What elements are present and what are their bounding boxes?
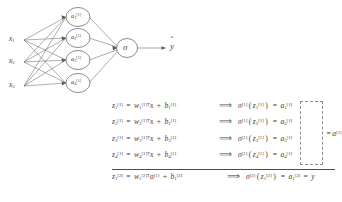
equals-sign: =: [279, 172, 286, 181]
equals-sign: =: [125, 150, 132, 159]
activation-value: a1[1]: [280, 101, 292, 110]
plus-sign: +: [155, 117, 162, 126]
implies-arrow-icon: ⟹: [220, 171, 246, 181]
hidden-node-circles: [66, 8, 90, 93]
implies-arrow-icon: ⟹: [212, 100, 238, 110]
network-edges-svg: [0, 0, 185, 105]
edge-group-hidden-to-output: [89, 17, 117, 83]
equations-block: z1[1] = w1[1]Tx + b1[1] ⟹ σ[1](z1[1]) = …: [112, 100, 339, 198]
equation-sigma-expression: σ[1](z2[1]) = a2[1]: [238, 117, 339, 126]
equation-z-expression-output: z1[2] = w1[2]Ta[1] + b1[2]: [112, 172, 220, 181]
equation-z-expression: z4[1] = w4[1]Tx + b4[1]: [112, 150, 212, 159]
implies-arrow-icon: ⟹: [212, 133, 238, 143]
equals-sign: =: [302, 172, 309, 181]
equals-sign: =: [271, 101, 278, 110]
equation-sigma-expression: σ[1](z3[1]) = a3[1]: [238, 134, 339, 143]
final-yhat: ˆy: [311, 172, 314, 181]
equation-sigma-expression-output: σ[2](z1[2]) = a1[2] = ˆy: [246, 172, 315, 181]
equation-row: z3[1] = w3[1]Tx + b3[1] ⟹ σ[1](z3[1]) = …: [112, 133, 339, 149]
neural-network-diagram: x1 x2 x3 a1[1] a2[1] a3[1] a4[1] σ ˆy: [0, 0, 185, 105]
equals-sign: =: [125, 101, 132, 110]
activation-vector-annotation: =a[1]: [325, 129, 342, 138]
equation-z-expression: z2[1] = w2[1]Tx + b2[1]: [112, 117, 212, 126]
plus-sign: +: [161, 172, 168, 181]
activation-value: a3[1]: [280, 134, 292, 143]
yhat-hat-glyph: ˆ: [311, 168, 314, 175]
equations-divider-rule: [112, 169, 335, 170]
equation-row: z4[1] = w4[1]Tx + b4[1] ⟹ σ[1](z4[1]) = …: [112, 149, 339, 165]
equals-sign: =: [271, 134, 278, 143]
equation-row: z2[1] = w2[1]Tx + b2[1] ⟹ σ[1](z2[1]) = …: [112, 116, 339, 132]
output-layer-equation-row: z1[2] = w1[2]Ta[1] + b1[2] ⟹ σ[2](z1[2])…: [112, 171, 315, 181]
equation-sigma-expression: σ[1](z1[1]) = a1[1]: [238, 101, 339, 110]
equation-z-expression: z1[1] = w1[1]Tx + b1[1]: [112, 101, 212, 110]
equals-sign: =: [125, 172, 132, 181]
equals-sign: =: [271, 150, 278, 159]
equals-sign: =: [271, 117, 278, 126]
plus-sign: +: [155, 150, 162, 159]
activation-value: a4[1]: [280, 150, 292, 159]
edge-arrowheads: [62, 15, 118, 85]
implies-arrow-icon: ⟹: [212, 116, 238, 126]
output-arrowhead: [162, 46, 167, 49]
output-activation-value: a1[2]: [288, 172, 300, 181]
plus-sign: +: [155, 134, 162, 143]
equation-sigma-expression: σ[1](z4[1]) = a4[1]: [238, 150, 339, 159]
output-node-circle: [117, 39, 138, 58]
edge-group-input-to-hidden: [24, 17, 66, 86]
plus-sign: +: [155, 101, 162, 110]
activation-value: a2[1]: [280, 117, 292, 126]
implies-arrow-icon: ⟹: [212, 149, 238, 159]
equation-row: z1[1] = w1[1]Tx + b1[1] ⟹ σ[1](z1[1]) = …: [112, 100, 339, 116]
equals-sign: =: [125, 117, 132, 126]
equation-z-expression: z3[1] = w3[1]Tx + b3[1]: [112, 134, 212, 143]
hidden-layer-equation-rows: z1[1] = w1[1]Tx + b1[1] ⟹ σ[1](z1[1]) = …: [112, 100, 339, 166]
equals-sign: =: [125, 134, 132, 143]
